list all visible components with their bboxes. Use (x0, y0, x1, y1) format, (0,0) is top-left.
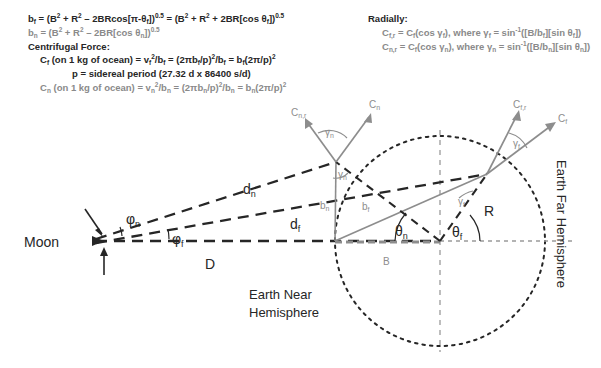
phi-n-label: φn (126, 211, 140, 229)
gamma-f-inner-label: γf (458, 196, 465, 208)
D-label: D (205, 256, 215, 272)
near-hemisphere-label-line2: Hemisphere (249, 305, 319, 320)
theta-n-label: θn (395, 223, 408, 241)
gamma-f-outer-label: γf (513, 138, 520, 150)
vector-Cn-arrowhead (364, 113, 372, 123)
segment-bn-line (335, 162, 336, 241)
diagram-page: bf = (B2 + R2 – 2BRcos[π-θf])0.5 = (B2 +… (0, 0, 601, 368)
df-label: df (290, 216, 301, 234)
Cn-label: Cn (369, 99, 380, 111)
moon-up-pointer-arrowhead (100, 247, 108, 256)
B-label: B (383, 256, 390, 267)
dn-label: dn (243, 181, 256, 199)
moon-label: Moon (24, 234, 59, 250)
gamma-n-outer-label: γn (325, 127, 334, 139)
bf-label: bf (362, 201, 370, 213)
gamma-n-inner-label: γn (338, 169, 347, 181)
near-hemisphere-label-line1: Earth Near (249, 287, 313, 302)
far-hemisphere-label: Earth Far Hemisphere (554, 160, 569, 288)
theta-f-arc (470, 215, 480, 241)
Cnr-label: Cn,r (291, 107, 307, 119)
theta-f-label: θf (452, 224, 463, 242)
vector-Cfr-arrowhead (512, 110, 521, 121)
vector-Cn-line (336, 117, 369, 162)
geometry-diagram: Moon φn φf dn df D B bn bf R θn θf γn γn… (0, 0, 601, 368)
Cf-label: Cf (558, 113, 567, 125)
Cfr-label: Cf,r (513, 99, 527, 111)
vector-Cnr-line (307, 122, 336, 162)
phi-f-label: φf (172, 231, 184, 249)
vector-Cf-arrowhead (545, 122, 556, 132)
R-label: R (484, 203, 494, 219)
